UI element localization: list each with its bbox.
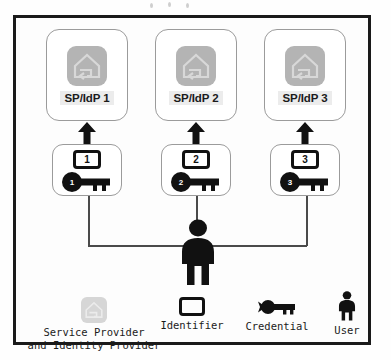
credential-box-1[interactable]: 1 1 [52, 144, 122, 196]
scan-speck [150, 3, 153, 8]
credential-key-icon: 1 [59, 171, 115, 193]
legend-label: Service Provider [24, 326, 164, 339]
identifier-icon: 2 [182, 150, 210, 169]
credential-number: 1 [67, 177, 78, 188]
identifier-number: 1 [84, 155, 90, 165]
diagram-canvas: SP/IdP 1 SP/IdP 2 SP/IdP 3 [0, 0, 391, 360]
credential-key-icon: 3 [277, 171, 333, 193]
sp-idp-box-2[interactable]: SP/IdP 2 [155, 29, 237, 121]
arrow-up-icon [186, 122, 206, 144]
credential-number: 3 [285, 177, 296, 188]
sp-idp-label: SP/IdP 3 [278, 91, 331, 105]
user-icon[interactable] [176, 219, 220, 291]
legend-label-line2: and Identity Provider [24, 339, 164, 352]
sp-idp-label: SP/IdP 1 [60, 91, 113, 105]
legend-item-service-provider: Service Provider and Identity Provider [24, 297, 164, 352]
legend-label: User [322, 324, 372, 337]
legend-item-identifier: Identifier [152, 297, 232, 332]
identifier-number: 3 [302, 155, 308, 165]
legend-item-user: User [322, 291, 372, 337]
scan-speck [168, 2, 171, 7]
legend-label: Identifier [152, 319, 232, 332]
user-icon [335, 291, 359, 321]
credential-key-icon [256, 297, 298, 317]
identifier-icon: 1 [73, 150, 101, 169]
sp-idp-box-3[interactable]: SP/IdP 3 [264, 29, 346, 121]
scan-speck [186, 3, 189, 8]
sp-idp-label: SP/IdP 2 [169, 91, 222, 105]
identifier-icon [179, 297, 205, 316]
service-provider-icon [81, 297, 107, 323]
identifier-number: 2 [193, 155, 199, 165]
legend-label: Credential [232, 320, 322, 333]
service-provider-icon [67, 46, 107, 86]
arrow-up-icon [77, 122, 97, 144]
credential-number: 2 [176, 177, 187, 188]
connector-line-left-vertical [88, 196, 90, 246]
credential-box-2[interactable]: 2 2 [161, 144, 231, 196]
connector-line-right-vertical [306, 196, 308, 246]
arrow-up-icon [295, 122, 315, 144]
legend-item-credential: Credential [232, 297, 322, 333]
identifier-icon: 3 [291, 150, 319, 169]
credential-box-3[interactable]: 3 3 [270, 144, 340, 196]
service-provider-icon [285, 46, 325, 86]
credential-key-icon: 2 [168, 171, 224, 193]
sp-idp-box-1[interactable]: SP/IdP 1 [46, 29, 128, 121]
service-provider-icon [176, 46, 216, 86]
